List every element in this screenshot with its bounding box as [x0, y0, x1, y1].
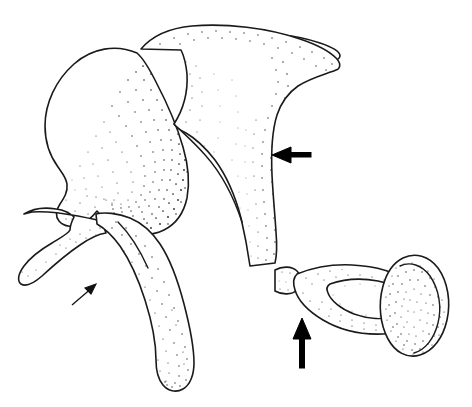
stapes-footplate — [380, 255, 448, 356]
arrow-diagonal-manubrium — [72, 284, 96, 305]
ossicular-chain-figure: Ossicular chain of the middle ear Malleu… — [0, 0, 472, 407]
anatomical-illustration-canvas — [0, 0, 472, 407]
malleus-head — [45, 48, 189, 234]
malleus-group — [19, 48, 194, 391]
stapes-group — [294, 255, 449, 356]
arrow-left-incus — [272, 147, 311, 163]
arrow-up-stapes — [293, 318, 311, 368]
malleus-manubrium — [96, 213, 194, 391]
